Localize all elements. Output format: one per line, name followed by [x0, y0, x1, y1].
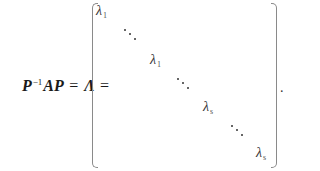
matrix-ap: AP [43, 77, 63, 94]
diagonal-dots [177, 78, 191, 92]
diagonal-dots [124, 29, 138, 43]
diagonal-dots [231, 125, 245, 139]
trailing-period: . [280, 80, 284, 96]
right-bracket [271, 3, 277, 168]
left-bracket [92, 3, 98, 168]
diagonal-entry: λs [256, 145, 266, 162]
diagonal-entry: λs [203, 99, 213, 116]
inverse-superscript: −1 [33, 77, 43, 87]
matrix-p: P [22, 77, 32, 94]
diagonal-entry: λ1 [96, 3, 107, 20]
equals-sign: = [100, 77, 109, 94]
diagonal-entry: λ1 [150, 52, 161, 69]
equals-sign: = [69, 77, 78, 94]
